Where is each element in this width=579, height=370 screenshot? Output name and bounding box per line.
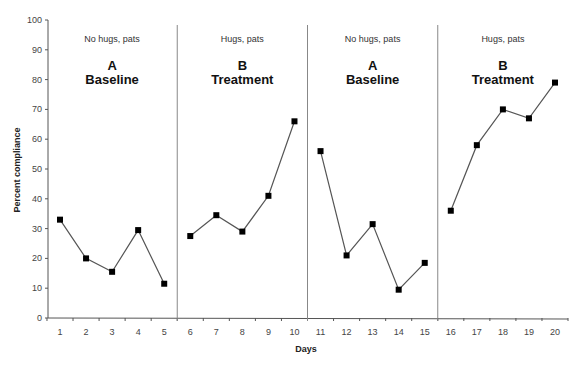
series-line bbox=[451, 83, 555, 211]
phase-name: Baseline bbox=[85, 72, 138, 87]
phase-letter: B bbox=[498, 58, 507, 73]
phase-name: Baseline bbox=[346, 72, 399, 87]
series-line bbox=[190, 121, 294, 236]
y-tick-label: 20 bbox=[32, 253, 42, 263]
x-tick-label: 20 bbox=[550, 327, 560, 337]
data-point-marker bbox=[57, 217, 63, 223]
y-tick-label: 90 bbox=[32, 45, 42, 55]
x-tick-label: 9 bbox=[266, 327, 271, 337]
y-tick-label: 60 bbox=[32, 134, 42, 144]
chart-canvas: 0102030405060708090100 12345678910111213… bbox=[0, 0, 579, 370]
phase-letter: B bbox=[238, 58, 247, 73]
x-tick-label: 11 bbox=[316, 327, 325, 337]
x-tick-label: 4 bbox=[136, 327, 141, 337]
y-tick-label: 100 bbox=[27, 15, 42, 25]
x-tick-label: 1 bbox=[57, 327, 62, 337]
phase-label-group: Hugs, patsBTreatment bbox=[211, 34, 274, 87]
x-tick-label: 18 bbox=[498, 327, 508, 337]
phase-condition-label: No hugs, pats bbox=[84, 34, 140, 44]
data-point-marker bbox=[161, 281, 167, 287]
x-tick-label: 13 bbox=[368, 327, 378, 337]
phase-label-group: No hugs, patsABaseline bbox=[345, 34, 401, 87]
data-point-marker bbox=[370, 221, 376, 227]
data-point-marker bbox=[500, 106, 506, 112]
x-tick-label: 7 bbox=[214, 327, 219, 337]
data-point-marker bbox=[396, 287, 402, 293]
x-tick-label: 17 bbox=[472, 327, 482, 337]
x-tick-label: 16 bbox=[446, 327, 456, 337]
phase-letter: A bbox=[107, 58, 117, 73]
series-line bbox=[321, 151, 425, 290]
x-tick-label: 3 bbox=[110, 327, 115, 337]
y-axis: 0102030405060708090100 bbox=[27, 15, 48, 323]
y-tick-label: 10 bbox=[32, 283, 42, 293]
data-point-marker bbox=[344, 252, 350, 258]
data-point-marker bbox=[187, 233, 193, 239]
phase-label-group: No hugs, patsABaseline bbox=[84, 34, 140, 87]
x-tick-label: 6 bbox=[188, 327, 193, 337]
phase-change-lines bbox=[177, 25, 438, 321]
data-point-marker bbox=[474, 142, 480, 148]
x-tick-label: 2 bbox=[84, 327, 89, 337]
phase-condition-label: No hugs, pats bbox=[345, 34, 401, 44]
x-tick-label: 5 bbox=[162, 327, 167, 337]
y-tick-label: 0 bbox=[37, 313, 42, 323]
phase-name: Treatment bbox=[472, 72, 535, 87]
x-tick-label: 15 bbox=[420, 327, 430, 337]
data-point-marker bbox=[552, 80, 558, 86]
phase-name: Treatment bbox=[211, 72, 274, 87]
x-tick-label: 8 bbox=[240, 327, 245, 337]
phase-labels: No hugs, patsABaselineHugs, patsBTreatme… bbox=[84, 34, 534, 87]
x-tick-label: 19 bbox=[524, 327, 534, 337]
x-axis-title: Days bbox=[295, 344, 317, 354]
data-point-marker bbox=[291, 118, 297, 124]
phase-letter: A bbox=[368, 58, 378, 73]
data-point-marker bbox=[83, 255, 89, 261]
y-tick-label: 70 bbox=[32, 104, 42, 114]
y-tick-label: 40 bbox=[32, 194, 42, 204]
data-point-marker bbox=[526, 115, 532, 121]
data-point-marker bbox=[265, 193, 271, 199]
y-tick-label: 30 bbox=[32, 224, 42, 234]
data-point-marker bbox=[109, 269, 115, 275]
data-point-marker bbox=[448, 208, 454, 214]
x-tick-label: 14 bbox=[394, 327, 404, 337]
data-point-marker bbox=[135, 227, 141, 233]
data-point-marker bbox=[318, 148, 324, 154]
phase-condition-label: Hugs, pats bbox=[481, 34, 525, 44]
data-point-marker bbox=[213, 212, 219, 218]
data-point-marker bbox=[239, 229, 245, 235]
x-tick-label: 12 bbox=[342, 327, 352, 337]
phase-label-group: Hugs, patsBTreatment bbox=[472, 34, 535, 87]
data-point-marker bbox=[422, 260, 428, 266]
y-tick-label: 50 bbox=[32, 164, 42, 174]
y-tick-label: 80 bbox=[32, 75, 42, 85]
y-axis-title: Percent compliance bbox=[12, 127, 22, 212]
phase-condition-label: Hugs, pats bbox=[221, 34, 265, 44]
x-tick-label: 10 bbox=[289, 327, 299, 337]
